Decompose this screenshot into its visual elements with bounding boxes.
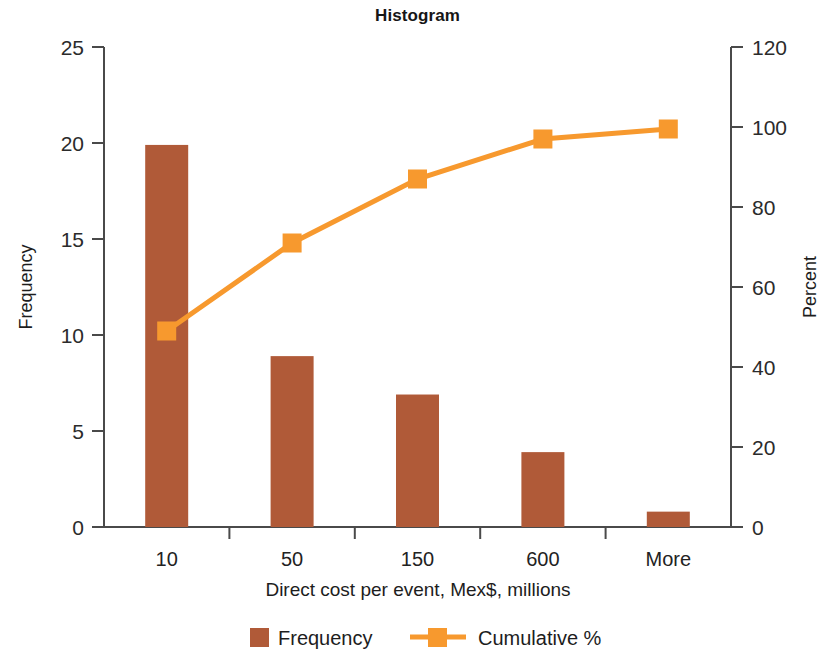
legend-marker-cumulative: [428, 628, 447, 647]
left-tick-label: 25: [61, 36, 84, 59]
left-tick-label: 5: [72, 420, 84, 443]
line-marker: [659, 120, 678, 139]
left-axis-tick-labels: 0510152025: [61, 36, 84, 539]
x-axis-ticks: [229, 527, 605, 539]
legend-label-frequency: Frequency: [278, 627, 373, 649]
x-category-label: More: [646, 548, 692, 570]
x-category-label: 600: [526, 548, 559, 570]
right-tick-label: 60: [752, 276, 775, 299]
right-tick-label: 120: [752, 36, 787, 59]
right-tick-label: 20: [752, 436, 775, 459]
left-tick-label: 0: [72, 516, 84, 539]
right-tick-label: 100: [752, 116, 787, 139]
right-tick-label: 40: [752, 356, 775, 379]
line-series-cumulative-percent: [167, 129, 669, 331]
x-category-label: 50: [281, 548, 303, 570]
cumulative-line: [167, 129, 669, 331]
left-tick-label: 20: [61, 132, 84, 155]
bar: [521, 452, 564, 527]
x-axis-title: Direct cost per event, Mex$, millions: [265, 579, 570, 600]
legend-label-cumulative-percent: Cumulative %: [478, 627, 602, 649]
line-series-markers: [157, 120, 678, 341]
bar: [647, 512, 690, 527]
x-axis-category-labels: 1050150600More: [156, 548, 692, 570]
chart-legend: Frequency Cumulative %: [250, 627, 602, 649]
right-axis-ticks: [731, 47, 743, 527]
line-marker: [408, 170, 427, 189]
left-tick-label: 15: [61, 228, 84, 251]
x-category-label: 150: [401, 548, 434, 570]
left-axis-ticks: [92, 47, 104, 527]
line-marker: [533, 130, 552, 149]
bar: [271, 356, 314, 527]
bar: [396, 395, 439, 527]
bar-series-frequency: [145, 145, 690, 527]
line-marker: [283, 234, 302, 253]
histogram-chart: Histogram 0510152025 020406080100120 105…: [0, 0, 835, 651]
legend-swatch-frequency: [250, 628, 269, 647]
x-category-label: 10: [156, 548, 178, 570]
right-tick-label: 0: [752, 516, 764, 539]
left-tick-label: 10: [61, 324, 84, 347]
right-tick-label: 80: [752, 196, 775, 219]
right-axis-tick-labels: 020406080100120: [752, 36, 787, 539]
chart-plot-area: 0510152025 020406080100120 1050150600Mor…: [0, 0, 835, 651]
line-marker: [157, 322, 176, 341]
y2-axis-title: Percent: [800, 256, 820, 318]
y-axis-title: Frequency: [16, 244, 36, 329]
